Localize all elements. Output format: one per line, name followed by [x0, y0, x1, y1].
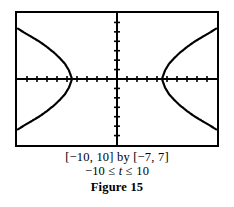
- hyperbola-plot: [17, 13, 217, 145]
- calculator-screen: [15, 11, 219, 147]
- caption-window-line: [−10, 10] by [−7, 7]: [0, 150, 234, 164]
- caption-parameter-line: −10 ≤ t ≤ 10: [0, 164, 234, 178]
- figure-container: [−10, 10] by [−7, 7] −10 ≤ t ≤ 10 Figure…: [0, 0, 234, 207]
- figure-caption: [−10, 10] by [−7, 7] −10 ≤ t ≤ 10 Figure…: [0, 150, 234, 194]
- figure-number-label: Figure 15: [0, 180, 234, 194]
- caption-param-suffix: ≤ 10: [122, 164, 149, 178]
- caption-param-prefix: −10 ≤: [85, 164, 119, 178]
